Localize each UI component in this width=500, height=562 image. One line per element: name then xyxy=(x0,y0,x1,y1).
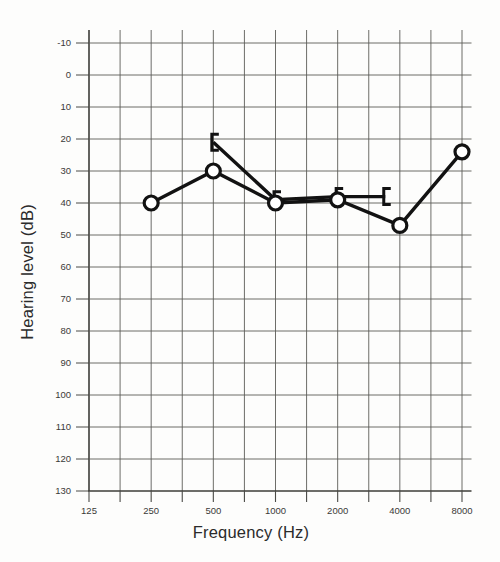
y-tick-label: 110 xyxy=(56,421,71,432)
y-axis-tick-labels: -100102030405060708090100110120130 xyxy=(55,37,71,496)
audiogram-chart-canvas: 1252505001000200040008000 -1001020304050… xyxy=(0,0,500,562)
data-point-circle xyxy=(269,196,283,210)
data-point-circle xyxy=(455,145,469,159)
y-axis-tick-leaders xyxy=(76,43,89,491)
data-point-circle xyxy=(206,164,220,178)
x-axis-tickmarks xyxy=(89,491,462,502)
x-tick-label: 250 xyxy=(143,505,159,516)
y-tick-label: 100 xyxy=(55,389,71,400)
y-axis-title: Hearing level (dB) xyxy=(18,204,36,340)
x-tick-label: 1000 xyxy=(265,505,286,516)
data-point-circle xyxy=(144,196,158,210)
y-tick-label: -10 xyxy=(57,37,71,48)
x-tick-label: 500 xyxy=(205,505,221,516)
y-tick-label: 40 xyxy=(60,197,71,208)
x-tick-label: 2000 xyxy=(327,505,348,516)
x-axis-tick-labels: 1252505001000200040008000 xyxy=(81,505,473,516)
y-tick-label: 20 xyxy=(60,133,71,144)
y-tick-label: 130 xyxy=(55,485,71,496)
data-point-circle xyxy=(331,193,345,207)
y-tick-label: 120 xyxy=(55,453,71,464)
y-tick-label: 80 xyxy=(60,325,71,336)
audiogram-figure: 1252505001000200040008000 -1001020304050… xyxy=(0,0,500,562)
data-point-bracket xyxy=(384,189,391,205)
x-tick-label: 125 xyxy=(81,505,97,516)
data-point-circle xyxy=(393,218,407,232)
y-tick-label: 30 xyxy=(60,165,71,176)
y-tick-label: 50 xyxy=(60,229,71,240)
y-tick-label: 0 xyxy=(66,69,71,80)
x-tick-label: 8000 xyxy=(451,505,472,516)
y-tick-label: 60 xyxy=(60,261,71,272)
y-tick-label: 90 xyxy=(60,357,71,368)
grid-vertical-lines xyxy=(89,30,462,491)
y-tick-label: 10 xyxy=(60,101,71,112)
grid-horizontal-lines xyxy=(88,43,472,491)
x-tick-label: 4000 xyxy=(389,505,410,516)
y-tick-label: 70 xyxy=(60,293,71,304)
x-axis-title: Frequency (Hz) xyxy=(193,523,310,541)
